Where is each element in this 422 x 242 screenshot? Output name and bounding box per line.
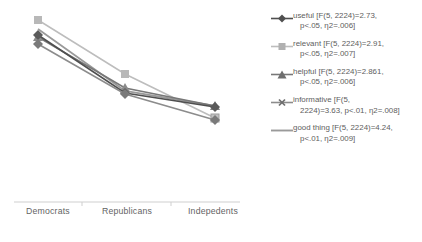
legend-label-relevant-line1: relevant [F(5, 2224)=2.91, xyxy=(293,39,384,48)
series-relevant xyxy=(34,16,219,122)
x-axis-label-democrats: Democrats xyxy=(26,206,70,216)
legend-label-useful-line2: p<.05, η2=.006] xyxy=(293,21,422,31)
legend-item-relevant[interactable]: relevant [F(5, 2224)=2.91, p<.05, η2=.00… xyxy=(271,39,422,60)
legend-item-helpful[interactable]: helpful [F(5, 2224)=2.861, p<.05, η2=.00… xyxy=(271,67,422,88)
x-axis-label-republicans: Republicans xyxy=(102,206,152,216)
legend-label-informative-line2: 2224)=3.63, p<.01, η2=.008] xyxy=(293,106,422,116)
legend-label-informative-line1: informative [F(5, xyxy=(293,95,350,104)
x-axis-labels: Democrats Republicans Indepedents xyxy=(0,206,250,228)
triangle-marker-icon xyxy=(271,69,293,80)
square-marker-icon xyxy=(271,41,293,52)
legend-label-good-thing-line2: p<.01, η2=.009] xyxy=(293,134,422,144)
line-chart-plot-area: Democrats Republicans Indepedents xyxy=(0,0,250,242)
legend-label-good-thing-line1: good thing [F(5, 2224)=4.24, xyxy=(293,123,393,132)
legend-label-useful-line1: useful [F(5, 2224)=2.73, xyxy=(293,11,377,20)
data-point-relevant-republicans xyxy=(121,70,129,78)
data-point-useful-indepedents xyxy=(210,102,220,112)
cross-marker-icon xyxy=(271,97,293,108)
legend-label-informative: informative [F(5, 2224)=3.63, p<.01, η2=… xyxy=(293,95,422,116)
legend-item-good-thing[interactable]: good thing [F(5, 2224)=4.24, p<.01, η2=.… xyxy=(271,123,422,144)
legend-item-useful[interactable]: useful [F(5, 2224)=2.73, p<.05, η2=.006] xyxy=(271,11,422,32)
chart-page: Democrats Republicans Indepedents useful… xyxy=(0,0,422,242)
diamond-marker-icon xyxy=(271,13,293,24)
legend-label-good-thing: good thing [F(5, 2224)=4.24, p<.01, η2=.… xyxy=(293,123,422,144)
legend-label-useful: useful [F(5, 2224)=2.73, p<.05, η2=.006] xyxy=(293,11,422,32)
legend-label-helpful-line2: p<.05, η2=.006] xyxy=(293,77,422,87)
legend-item-informative[interactable]: informative [F(5, 2224)=3.63, p<.01, η2=… xyxy=(271,95,422,116)
x-axis-label-indepedents: Indepedents xyxy=(188,206,238,216)
data-point-relevant-democrats xyxy=(34,16,42,24)
series-informative xyxy=(33,39,220,125)
line-marker-icon xyxy=(271,125,293,136)
legend-label-helpful: helpful [F(5, 2224)=2.861, p<.05, η2=.00… xyxy=(293,67,422,88)
series-informative-line xyxy=(38,44,215,120)
chart-legend: useful [F(5, 2224)=2.73, p<.05, η2=.006]… xyxy=(271,11,422,151)
legend-label-helpful-line1: helpful [F(5, 2224)=2.861, xyxy=(293,67,384,76)
legend-label-relevant-line2: p<.05, η2=.007] xyxy=(293,49,422,59)
legend-label-relevant: relevant [F(5, 2224)=2.91, p<.05, η2=.00… xyxy=(293,39,422,60)
